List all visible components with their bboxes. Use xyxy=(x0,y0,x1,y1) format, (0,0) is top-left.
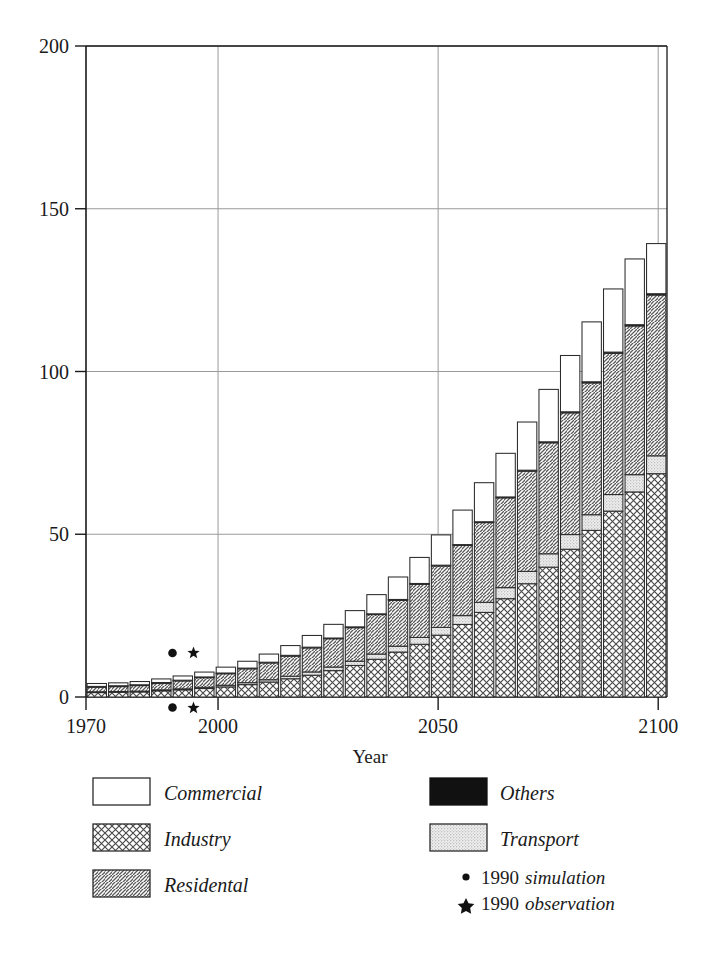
bar-segment-industry-2045 xyxy=(410,644,429,697)
bar-segment-residental-2000 xyxy=(216,673,235,685)
bar-segment-commercial-2080 xyxy=(560,355,579,411)
bar-segment-transport-2100 xyxy=(647,456,666,474)
y-tick-label-150: 150 xyxy=(39,198,69,220)
bar-segment-transport-2095 xyxy=(625,475,644,492)
x-axis-title: Year xyxy=(352,746,388,767)
legend-label-transport: Transport xyxy=(500,828,579,851)
bar-segment-transport-2040 xyxy=(388,646,407,652)
bar-group-2020 xyxy=(302,635,321,697)
bar-segment-commercial-1990 xyxy=(173,676,192,680)
bar-segment-residental-2100 xyxy=(647,295,666,456)
legend-item-transport[interactable]: Transport xyxy=(430,824,579,851)
legend-label-others: Others xyxy=(500,782,555,804)
bar-segment-industry-2025 xyxy=(324,671,343,697)
simulation-dot-marker-below-axis xyxy=(168,703,177,712)
x-tick-label-2100: 2100 xyxy=(638,715,678,737)
x-tick-label-2000: 2000 xyxy=(198,715,238,737)
bar-segment-commercial-2075 xyxy=(539,389,558,441)
bar-segment-industry-1990 xyxy=(173,690,192,697)
bar-group-2015 xyxy=(281,646,300,697)
legend-item-1990-simulation[interactable]: 1990simulation xyxy=(462,867,605,888)
legend-label-1990-simulation: 1990simulation xyxy=(481,867,605,888)
bar-segment-commercial-1995 xyxy=(195,672,214,677)
bar-segment-commercial-2050 xyxy=(431,535,450,565)
bar-group-2055 xyxy=(453,510,472,697)
legend-swatch-transport xyxy=(430,824,487,851)
bar-segment-transport-2025 xyxy=(324,667,343,671)
bar-group-2030 xyxy=(345,611,364,697)
bar-group-1985 xyxy=(152,679,171,697)
legend-swatch-others xyxy=(430,778,487,805)
y-tick-label-50: 50 xyxy=(49,523,69,545)
bar-group-2050 xyxy=(431,535,450,697)
legend-item-1990-observation[interactable]: 1990observation xyxy=(458,893,615,914)
bar-segment-residental-2030 xyxy=(345,627,364,661)
bar-segment-transport-2045 xyxy=(410,637,429,644)
bar-segment-residental-2035 xyxy=(367,614,386,654)
bar-segment-commercial-2090 xyxy=(604,289,623,352)
bar-group-2025 xyxy=(324,624,343,697)
energy-demand-stacked-bar-chart: 050100150200 1970200020502100 Year Comme… xyxy=(0,0,719,954)
bar-segment-commercial-2060 xyxy=(474,483,493,522)
bar-group-2005 xyxy=(238,661,257,697)
bar-segment-industry-2090 xyxy=(604,511,623,697)
bar-segment-commercial-2015 xyxy=(281,646,300,656)
bar-segment-commercial-2005 xyxy=(238,661,257,668)
bar-segment-commercial-2085 xyxy=(582,322,601,382)
bar-segment-transport-2055 xyxy=(453,616,472,625)
bar-segment-residental-2040 xyxy=(388,600,407,646)
bar-group-2095 xyxy=(625,259,644,697)
bar-segment-commercial-1980 xyxy=(130,682,149,685)
bar-segment-transport-2050 xyxy=(431,627,450,635)
bar-segment-commercial-2035 xyxy=(367,595,386,614)
bar-segment-commercial-2065 xyxy=(496,453,515,497)
bar-segment-commercial-2025 xyxy=(324,624,343,638)
bar-segment-commercial-2070 xyxy=(517,422,536,470)
legend-swatch-industry xyxy=(93,824,150,851)
bar-segment-industry-2020 xyxy=(302,675,321,697)
bar-segment-residental-2010 xyxy=(259,663,278,680)
bar-group-2075 xyxy=(539,389,558,697)
bar-group-2000 xyxy=(216,667,235,697)
bar-segment-residental-2020 xyxy=(302,648,321,672)
bar-segment-industry-2010 xyxy=(259,682,278,697)
bar-segment-residental-2060 xyxy=(474,523,493,603)
bar-group-2045 xyxy=(410,557,429,697)
bar-segment-transport-2085 xyxy=(582,515,601,531)
simulation-dot-marker-above-axis xyxy=(168,649,177,658)
bar-segment-commercial-2055 xyxy=(453,510,472,544)
bar-segment-industry-2070 xyxy=(517,584,536,697)
x-tick-label-2050: 2050 xyxy=(418,715,458,737)
bar-segment-transport-2090 xyxy=(604,495,623,512)
bar-segment-transport-2075 xyxy=(539,554,558,567)
bar-segment-transport-2030 xyxy=(345,661,364,665)
bar-group-1975 xyxy=(109,683,128,697)
legend-obs-word: observation xyxy=(525,893,615,914)
bar-segment-residental-2075 xyxy=(539,443,558,554)
bar-segment-commercial-1975 xyxy=(109,683,128,686)
bar-segment-residental-2080 xyxy=(560,413,579,535)
dot-marker-icon xyxy=(462,873,469,880)
legend-item-residental[interactable]: Residental xyxy=(93,870,249,897)
bar-segment-industry-2050 xyxy=(431,635,450,697)
legend-item-commercial[interactable]: Commercial xyxy=(93,778,263,805)
bar-segment-industry-2040 xyxy=(388,652,407,697)
bar-group-1990 xyxy=(173,676,192,697)
bar-segment-industry-2005 xyxy=(238,685,257,697)
bar-segment-industry-1980 xyxy=(130,692,149,697)
bar-segment-residental-2095 xyxy=(625,326,644,475)
y-tick-label-200: 200 xyxy=(39,35,69,57)
bar-group-2070 xyxy=(517,422,536,697)
bar-group-2090 xyxy=(604,289,623,697)
bar-group-1970 xyxy=(87,683,106,697)
bar-segment-residental-2070 xyxy=(517,471,536,571)
bar-group-2035 xyxy=(367,595,386,697)
bar-segment-commercial-2000 xyxy=(216,667,235,673)
bar-segment-industry-1995 xyxy=(195,689,214,697)
bar-segment-industry-2100 xyxy=(647,474,666,697)
bar-segment-transport-2065 xyxy=(496,588,515,599)
bar-segment-industry-2015 xyxy=(281,679,300,697)
bar-segment-residental-2085 xyxy=(582,383,601,515)
bar-segment-industry-1985 xyxy=(152,691,171,697)
bar-segment-industry-2075 xyxy=(539,567,558,697)
